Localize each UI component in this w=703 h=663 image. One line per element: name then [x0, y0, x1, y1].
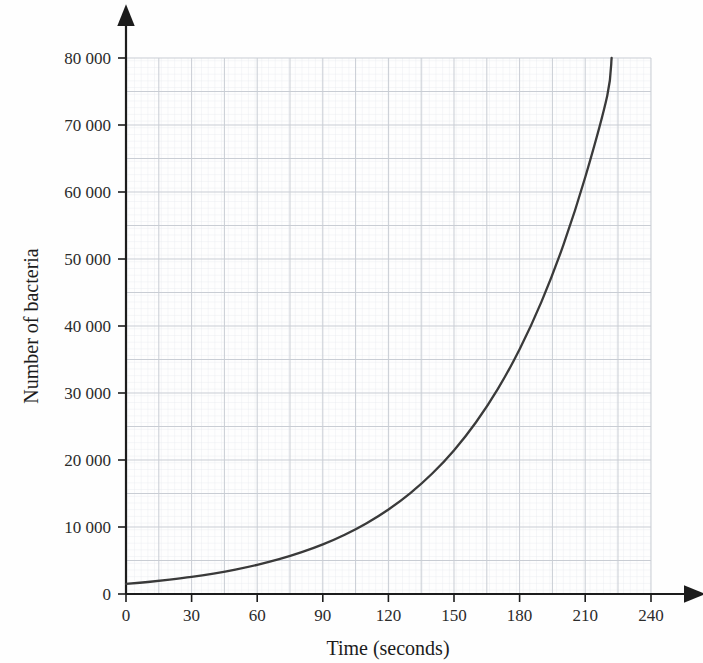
y-tick-label: 40 000 — [64, 317, 111, 336]
y-tick-label: 10 000 — [64, 518, 111, 537]
y-tick-label: 0 — [103, 585, 112, 604]
x-tick-label: 210 — [572, 606, 598, 625]
x-tick-label: 150 — [441, 606, 467, 625]
x-tick-label: 180 — [507, 606, 533, 625]
x-tick-label: 60 — [249, 606, 266, 625]
x-axis-title: Time (seconds) — [326, 637, 449, 660]
y-tick-label: 20 000 — [64, 451, 111, 470]
x-tick-label: 120 — [376, 606, 402, 625]
y-axis-title: Number of bacteria — [20, 248, 42, 404]
bacteria-growth-chart: 0 30 60 90 120 150 180 210 240 0 10 000 … — [0, 0, 703, 663]
y-tick-label: 50 000 — [64, 250, 111, 269]
y-tick-label: 30 000 — [64, 384, 111, 403]
y-tick-label: 70 000 — [64, 116, 111, 135]
x-tick-label: 90 — [314, 606, 331, 625]
y-tick-label: 80 000 — [64, 49, 111, 68]
chart-canvas: 0 30 60 90 120 150 180 210 240 0 10 000 … — [0, 0, 703, 663]
y-tick-labels: 0 10 000 20 000 30 000 40 000 50 000 60 … — [64, 49, 111, 604]
y-tick-label: 60 000 — [64, 183, 111, 202]
x-tick-label: 240 — [638, 606, 664, 625]
x-tick-label: 0 — [122, 606, 131, 625]
x-tick-label: 30 — [183, 606, 200, 625]
